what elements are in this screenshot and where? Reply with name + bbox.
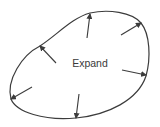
arrow-right-icon (122, 70, 146, 75)
arrow-top-icon (87, 14, 90, 38)
arrow-upper-left-icon (40, 46, 56, 63)
expand-label: Expand (70, 57, 110, 69)
arrow-bottom-icon (76, 94, 79, 118)
arrow-upper-right-icon (121, 23, 141, 35)
arrow-lower-left-icon (11, 87, 32, 99)
